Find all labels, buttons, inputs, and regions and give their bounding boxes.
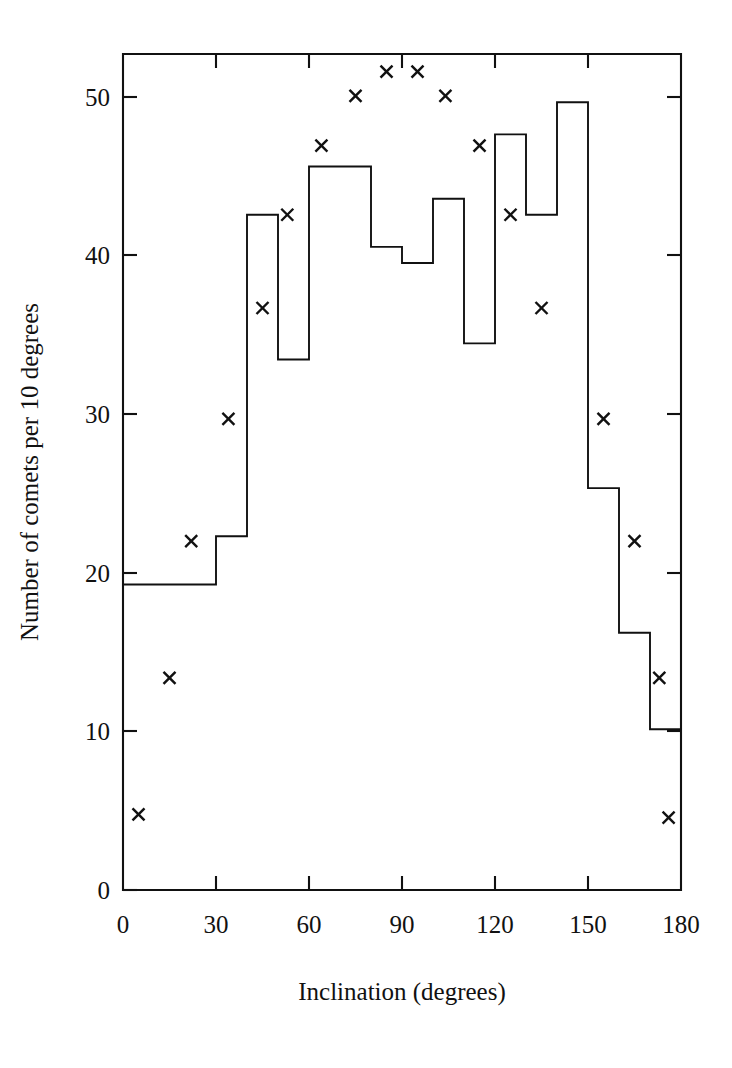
- y-tick-label-40: 40: [85, 242, 110, 269]
- x-tick-label-120: 120: [476, 911, 514, 938]
- scatter-marker-x: [474, 140, 486, 152]
- x-tick-label-0: 0: [117, 911, 130, 938]
- y-tick-label-10: 10: [85, 718, 110, 745]
- x-tick-label-150: 150: [569, 911, 607, 938]
- y-tick-label-0: 0: [98, 877, 111, 904]
- scatter-marker-x: [315, 140, 327, 152]
- x-axis-ticks: [216, 54, 588, 890]
- scatter-marker-x: [281, 209, 293, 221]
- histogram-step-series: [123, 102, 681, 729]
- scatter-marker-x: [350, 90, 362, 102]
- scatter-marker-x: [412, 66, 424, 78]
- scatter-marker-x: [381, 66, 393, 78]
- figure-container: 0 10 20 30 40 50 0 30 60 90 120: [0, 0, 732, 1068]
- x-axis-title: Inclination (degrees): [298, 978, 506, 1006]
- x-tick-label-90: 90: [390, 911, 415, 938]
- model-scatter-series: [133, 66, 675, 824]
- y-tick-label-30: 30: [85, 401, 110, 428]
- scatter-marker-x: [133, 808, 145, 820]
- scatter-marker-x: [598, 413, 610, 425]
- scatter-marker-x: [185, 535, 197, 547]
- x-tick-label-60: 60: [297, 911, 322, 938]
- comet-inclination-chart: 0 10 20 30 40 50 0 30 60 90 120: [0, 0, 732, 1068]
- frame-box: [123, 54, 681, 890]
- scatter-marker-x: [663, 812, 675, 824]
- y-tick-label-50: 50: [85, 84, 110, 111]
- y-axis-title: Number of comets per 10 degrees: [16, 303, 43, 641]
- plot-frame: [123, 54, 681, 890]
- scatter-marker-x: [164, 672, 176, 684]
- scatter-marker-x: [222, 413, 234, 425]
- scatter-marker-x: [439, 90, 451, 102]
- scatter-marker-x: [505, 209, 517, 221]
- scatter-marker-x: [257, 302, 269, 314]
- x-axis-tick-labels: 0 30 60 90 120 150 180: [117, 911, 700, 938]
- y-tick-label-20: 20: [85, 560, 110, 587]
- x-tick-label-30: 30: [204, 911, 229, 938]
- scatter-marker-x: [653, 672, 665, 684]
- scatter-marker-x: [536, 302, 548, 314]
- y-axis-ticks: [123, 97, 681, 890]
- x-tick-label-180: 180: [662, 911, 700, 938]
- scatter-marker-x: [629, 535, 641, 547]
- y-axis-tick-labels: 0 10 20 30 40 50: [85, 84, 110, 904]
